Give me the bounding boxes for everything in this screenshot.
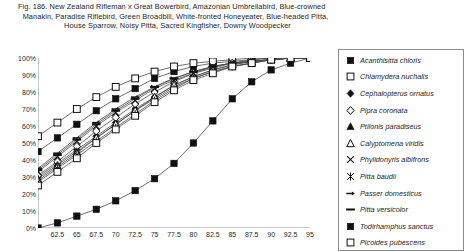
legend-item: Todirhamphus sanctus <box>339 218 463 235</box>
figure-caption: Fig. 186. New Zealand Rifleman x Great B… <box>0 2 345 31</box>
y-tick-label: 0% <box>2 225 36 232</box>
data-point-marker <box>287 58 294 61</box>
legend-marker-icon <box>344 54 357 67</box>
data-point-marker <box>54 135 60 141</box>
data-point-marker <box>113 198 119 204</box>
x-axis-tick-labels: 62.56567.57072.57577.58082.58587.59092.5… <box>38 231 310 245</box>
legend-marker-icon <box>344 153 357 166</box>
legend-label: Phylidonyris albifrons <box>360 155 429 164</box>
data-point-marker <box>151 176 157 182</box>
data-point-marker <box>151 75 157 81</box>
legend-marker-icon <box>344 70 357 83</box>
legend-marker-icon <box>344 87 357 100</box>
legend-item: Pipra coronata <box>339 102 463 119</box>
x-tick-label: 95 <box>306 231 314 238</box>
legend-marker-icon <box>344 236 357 249</box>
legend-marker-icon <box>344 170 357 183</box>
y-tick-label: 10% <box>2 208 36 215</box>
x-tick-label: 87.5 <box>245 231 259 238</box>
data-point-marker <box>38 182 41 189</box>
legend-marker <box>344 153 357 166</box>
legend-marker-icon <box>344 120 357 133</box>
y-tick-label: 40% <box>2 157 36 164</box>
data-point-marker <box>54 220 60 226</box>
data-point-marker <box>93 94 100 101</box>
x-tick-label: 72.5 <box>128 231 142 238</box>
x-tick-label: 82.5 <box>206 231 220 238</box>
data-point-marker <box>74 213 80 219</box>
data-point-marker <box>229 63 236 70</box>
legend-label: Passer domesticus <box>360 189 422 198</box>
data-point-marker <box>347 90 354 98</box>
x-tick-label: 77.5 <box>167 231 181 238</box>
caption-line-1: Fig. 186. New Zealand Rifleman x Great B… <box>0 2 345 12</box>
data-point-marker <box>54 169 61 176</box>
legend-marker-icon <box>344 104 357 117</box>
data-point-marker <box>132 85 138 91</box>
x-tick-label: 80 <box>190 231 198 238</box>
data-point-marker <box>73 155 80 162</box>
data-point-marker <box>132 75 139 82</box>
y-tick-label: 30% <box>2 174 36 181</box>
data-point-marker <box>93 140 100 147</box>
x-tick-label: 65 <box>73 231 81 238</box>
chart-legend: Acanthisitta chlorisChlamydera nuchalisC… <box>338 49 464 251</box>
legend-item: Calyptomena viridis <box>339 135 463 152</box>
data-point-marker <box>112 84 119 91</box>
legend-marker <box>344 104 357 117</box>
data-point-marker <box>347 156 354 163</box>
data-point-marker <box>93 108 99 114</box>
legend-marker <box>344 137 357 150</box>
legend-item: Phylidonyris albifrons <box>339 152 463 169</box>
legend-marker-icon <box>344 137 357 150</box>
data-point-marker <box>151 99 158 106</box>
data-point-marker <box>73 106 80 113</box>
data-point-marker <box>210 118 216 124</box>
legend-item: Picoides pubescens <box>339 235 463 252</box>
data-point-marker <box>347 239 354 246</box>
data-point-marker <box>171 87 178 94</box>
legend-label: Calyptomena viridis <box>360 139 424 148</box>
legend-marker <box>344 87 357 100</box>
x-tick-label: 85 <box>228 231 236 238</box>
data-point-marker <box>38 225 41 228</box>
data-point-marker <box>171 63 178 70</box>
data-point-marker <box>38 148 41 154</box>
caption-line-3: House Sparrow, Noisy Pitta, Sacred Kingf… <box>0 21 345 31</box>
legend-marker <box>344 54 357 67</box>
x-tick-label: 90 <box>267 231 275 238</box>
legend-label: Pitta versicolor <box>360 205 408 214</box>
legend-label: Chlamydera nuchalis <box>360 72 428 81</box>
data-point-marker <box>346 191 355 195</box>
legend-marker <box>344 203 357 216</box>
x-tick-label: 67.5 <box>89 231 103 238</box>
y-tick-label: 90% <box>2 72 36 79</box>
legend-label: Acanthisitta chloris <box>360 56 421 65</box>
data-point-marker <box>268 58 275 63</box>
data-point-marker <box>132 112 139 119</box>
legend-item: Pitta baudii <box>339 168 463 185</box>
y-tick-label: 60% <box>2 123 36 130</box>
legend-label: Pipra coronata <box>360 106 407 115</box>
data-point-marker <box>249 79 255 85</box>
data-point-marker <box>132 187 138 193</box>
data-point-marker <box>248 60 255 67</box>
y-tick-label: 50% <box>2 140 36 147</box>
data-point-marker <box>190 77 197 84</box>
data-point-marker <box>113 96 119 102</box>
data-point-marker <box>347 57 353 63</box>
y-axis-tick-labels: 0%10%20%30%40%50%60%70%80%90%100% <box>0 58 36 228</box>
legend-marker-icon <box>344 187 357 200</box>
data-point-marker <box>229 96 235 102</box>
legend-item: Cephalopterus ornatus <box>339 85 463 102</box>
data-point-marker <box>347 106 354 114</box>
plot-area <box>38 58 310 228</box>
legend-item: Chlamydera nuchalis <box>339 69 463 86</box>
data-point-marker <box>268 67 274 73</box>
caption-line-2: Manakin, Paradise Riflebird, Green Broad… <box>0 12 345 22</box>
data-point-marker <box>93 206 99 212</box>
data-point-marker <box>190 60 197 67</box>
legend-marker <box>344 220 357 233</box>
x-tick-label: 75 <box>151 231 159 238</box>
legend-item: Passer domesticus <box>339 185 463 202</box>
